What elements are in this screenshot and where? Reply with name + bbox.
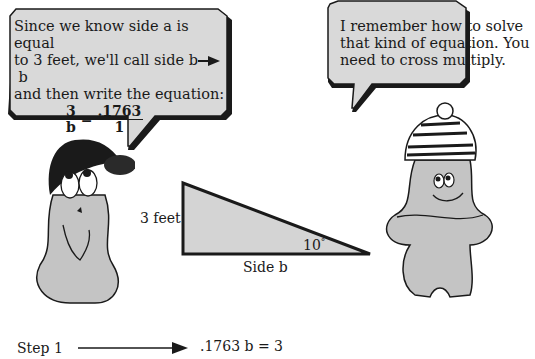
left-bubble-line-1: Since we know side a is equal [14, 18, 229, 52]
step-label: Step 1 [17, 340, 63, 356]
right-triangle-diagram [180, 180, 380, 260]
left-bubble-line-3: and then write the equation: [14, 86, 229, 103]
right-character-with-beanie [375, 85, 505, 305]
right-bubble-line-1: I remember how to solve [340, 18, 535, 35]
right-bubble-line-2: that kind of equation. You [340, 35, 535, 52]
right-bubble-text: I remember how to solve that kind of equ… [340, 18, 535, 69]
left-bubble-line-2: to 3 feet, we'll call side b b [14, 52, 229, 86]
angle-label: 10° [303, 237, 325, 253]
step-result-equation: .1763 b = 3 [200, 338, 283, 354]
right-bubble-line-3: need to cross multiply. [340, 52, 535, 69]
arrow-right-icon [78, 341, 188, 355]
fraction-right: .1763 1 [95, 104, 143, 135]
left-bubble-text: Since we know side a is equal to 3 feet,… [14, 18, 229, 135]
left-character-with-cap [25, 135, 135, 305]
proportion-equation: 3 b = .1763 1 [64, 104, 229, 135]
fraction-left: 3 b [64, 104, 78, 135]
side-b-label: Side b [243, 259, 288, 275]
side-a-label: 3 feet [140, 210, 181, 226]
arrow-right-icon [198, 56, 220, 66]
